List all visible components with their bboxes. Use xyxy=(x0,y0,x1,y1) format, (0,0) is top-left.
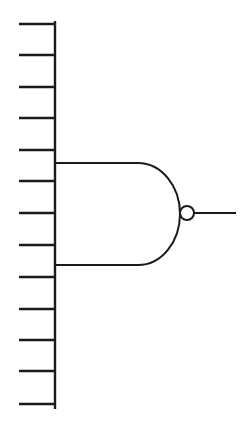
input-lines xyxy=(19,24,55,404)
nand-gate-body xyxy=(55,163,180,265)
nand-gate-svg xyxy=(0,0,246,437)
inversion-bubble-icon xyxy=(180,206,194,220)
nand-gate-diagram xyxy=(0,0,246,437)
